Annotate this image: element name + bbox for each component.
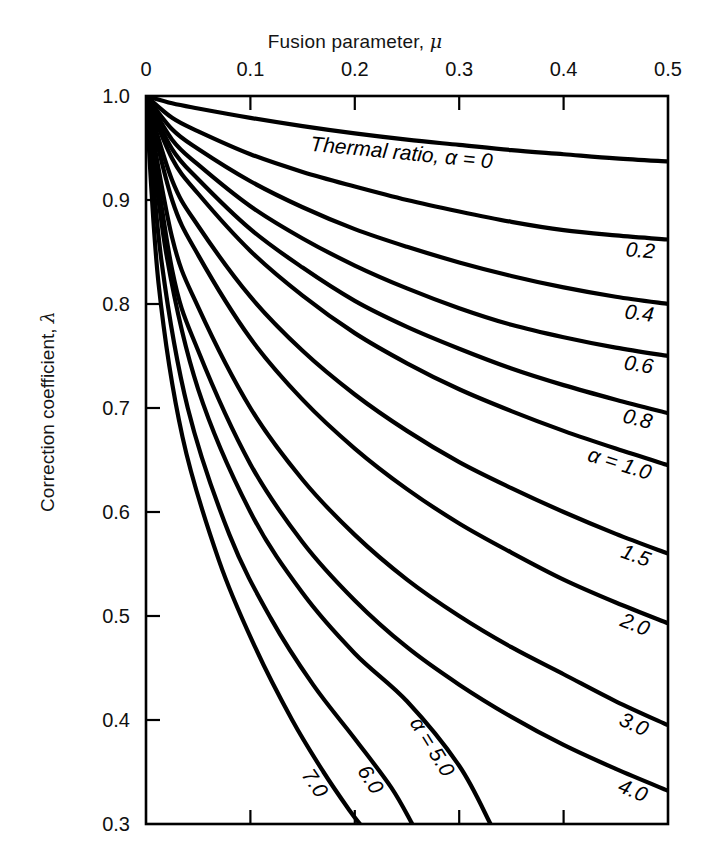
curve-label-alpha-5.0: α = 5.0 bbox=[406, 713, 460, 781]
curve-label-alpha-6.0: 6.0 bbox=[353, 761, 388, 798]
curve-label-alpha-4.0: 4.0 bbox=[615, 774, 651, 807]
curve-label-alpha-3.0: 3.0 bbox=[616, 707, 652, 740]
curve-label-alpha-7.0: 7.0 bbox=[298, 764, 334, 801]
curve-label-alpha-0.2: 0.2 bbox=[625, 237, 656, 262]
plot-area: Thermal ratio, α = 00.20.40.60.8α = 1.01… bbox=[0, 0, 710, 859]
curve-label-alpha-2.0: 2.0 bbox=[617, 607, 654, 640]
chart-page: Fusion parameter, μ Correction coefficie… bbox=[0, 0, 710, 859]
curve-label-alpha-0.4: 0.4 bbox=[623, 299, 655, 326]
curve-label-alpha-1.5: 1.5 bbox=[618, 539, 654, 571]
curve-alpha-7.0 bbox=[146, 96, 360, 824]
curve-label-alpha-0.6: 0.6 bbox=[623, 351, 656, 378]
